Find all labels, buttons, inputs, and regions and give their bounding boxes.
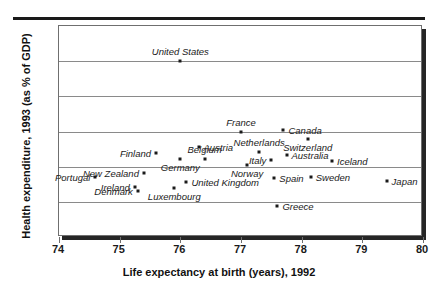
- data-point-label: Greece: [282, 201, 313, 212]
- gridline-y-12: [59, 96, 421, 97]
- data-point-label: Australia: [292, 150, 329, 161]
- plot-frame-shadow-right: [422, 29, 426, 240]
- data-point-label: Sweden: [316, 172, 350, 183]
- data-point: [133, 185, 136, 188]
- x-tick-label-77: 77: [234, 243, 246, 255]
- plot-frame-shadow-bottom: [62, 236, 426, 240]
- x-tick-label-76: 76: [173, 243, 185, 255]
- data-point: [385, 179, 388, 182]
- data-point-label: Canada: [288, 124, 321, 135]
- data-point-label: United States: [152, 46, 209, 57]
- data-point-label: Japan: [392, 175, 418, 186]
- data-point-label: Spain: [279, 173, 303, 184]
- data-point: [142, 171, 145, 174]
- x-tick-label-79: 79: [355, 243, 367, 255]
- x-tick-label-78: 78: [295, 243, 307, 255]
- data-point-label: Italy: [249, 154, 266, 165]
- data-point-label: Germany: [161, 162, 200, 173]
- data-point: [258, 150, 261, 153]
- data-point-label: Denmark: [94, 186, 133, 197]
- data-point: [306, 138, 309, 141]
- x-tick-label-75: 75: [113, 243, 125, 255]
- data-point: [273, 177, 276, 180]
- data-point: [240, 130, 243, 133]
- plot-area: United StatesFranceCanadaSwitzerlandAust…: [58, 25, 422, 236]
- x-axis-title: Life expectancy at birth (years), 1992: [0, 266, 438, 278]
- gridline-y-14: [59, 61, 421, 62]
- data-point-label: Belgium: [187, 144, 221, 155]
- data-point-label: Luxembourg: [148, 191, 201, 202]
- data-point: [173, 186, 176, 189]
- data-point: [276, 205, 279, 208]
- data-point-label: Finland: [120, 147, 151, 158]
- gridline-y-6: [59, 202, 421, 203]
- data-point: [185, 180, 188, 183]
- chart-figure: United StatesFranceCanadaSwitzerlandAust…: [0, 0, 438, 291]
- data-point: [155, 151, 158, 154]
- data-point: [246, 163, 249, 166]
- data-point-label: New Zealand: [83, 167, 139, 178]
- data-point-label: United Kingdom: [191, 176, 259, 187]
- data-point-label: Portugal: [55, 172, 90, 183]
- data-point: [179, 157, 182, 160]
- data-point: [179, 60, 182, 63]
- data-point: [94, 176, 97, 179]
- data-point: [309, 176, 312, 179]
- top-rule-divider: [13, 17, 425, 20]
- data-point-label: Iceland: [337, 155, 368, 166]
- x-tick-label-80: 80: [416, 243, 428, 255]
- x-tick-label-74: 74: [52, 243, 64, 255]
- data-point: [203, 157, 206, 160]
- data-point: [282, 128, 285, 131]
- y-axis-title: Health expenditure, 1993 (as % of GDP): [20, 26, 32, 246]
- data-point-label: Netherlands: [234, 137, 285, 148]
- data-point: [270, 158, 273, 161]
- data-point: [331, 159, 334, 162]
- data-point: [136, 190, 139, 193]
- data-point-label: France: [226, 117, 256, 128]
- data-point: [285, 154, 288, 157]
